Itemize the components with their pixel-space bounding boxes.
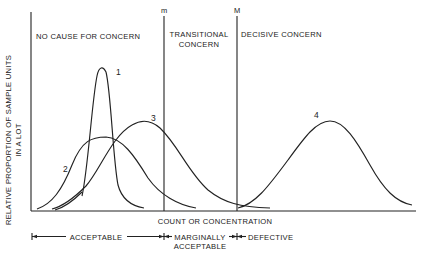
region-label-no-cause: NO CAUSE FOR CONCERN [36,32,140,41]
arrowhead-left [32,235,37,238]
curve-label-1: 1 [116,67,121,77]
region-label-transitional-line2: CONCERN [179,40,220,49]
three-class-sampling-diagram: RELATIVE PROPORTION OF SAMPLE UNITS IN A… [0,0,428,256]
y-axis-label-line1: RELATIVE PROPORTION OF SAMPLE UNITS [4,55,13,225]
arrowhead-right-M [232,235,237,238]
curve-label-4: 4 [314,110,319,120]
class-label-defective: DEFECTIVE [248,233,293,242]
class-label-marginal-line2: ACCEPTABLE [174,242,227,251]
arrowhead-right-m [159,235,164,238]
region-label-decisive: DECISIVE CONCERN [241,30,322,39]
x-axis-label: COUNT OR CONCENTRATION [158,217,273,226]
threshold-label-m: m [161,6,167,15]
curve-label-3: 3 [151,113,156,123]
distribution-curve-4 [238,121,412,208]
region-label-transitional-line1: TRANSITIONAL [170,30,229,39]
class-label-marginal-line1: MARGINALLY [174,233,225,242]
curve-label-2: 2 [63,164,68,174]
y-axis-label-line2: IN A LOT [14,123,23,156]
threshold-label-M: M [234,6,240,15]
class-label-acceptable: ACCEPTABLE [70,233,123,242]
